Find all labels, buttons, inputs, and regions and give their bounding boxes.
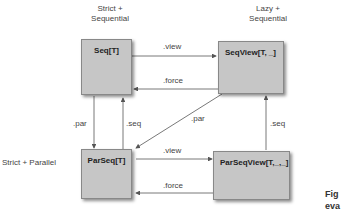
header-strict-sequential: Strict + Sequential: [80, 4, 140, 24]
edge-label-parseqview-to-seqview: .seq: [270, 119, 285, 128]
edge-label-seqview-to-parseq: .par: [191, 114, 205, 123]
node-parseqview-label: ParSeqView[T,_,_]: [220, 158, 289, 167]
edge-label-parseq-to-parseqview: .view: [163, 146, 181, 155]
node-seqview: SeqView[T, _]: [218, 41, 284, 94]
node-seqview-label: SeqView[T, _]: [225, 48, 283, 57]
edge-label-seq-to-parseq: .par: [73, 119, 87, 128]
header-strict-parallel: Strict + Parallel: [2, 158, 68, 168]
figure-caption: Fig eva: [325, 188, 340, 212]
node-parseq: ParSeq[T]: [81, 149, 132, 199]
node-seq-label: Seq[T]: [82, 46, 131, 55]
header-lazy-sequential: Lazy + Sequential: [238, 4, 298, 24]
node-parseq-label: ParSeq[T]: [82, 156, 131, 165]
edge-label-seqview-to-seq: .force: [163, 76, 183, 85]
edge-label-parseqview-to-parseq: .force: [163, 181, 183, 190]
edge-label-parseq-to-seq: .seq: [126, 119, 141, 128]
node-seq: Seq[T]: [81, 39, 132, 95]
node-parseqview: ParSeqView[T,_,_]: [213, 151, 290, 200]
edge-label-seq-to-seqview: .view: [163, 42, 181, 51]
edge-seqview-to-parseq: [136, 94, 222, 148]
